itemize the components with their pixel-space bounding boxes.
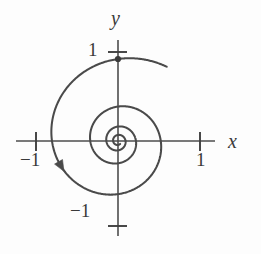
direction-arrow-icon	[55, 160, 64, 172]
spiral-phase-portrait-figure: y x 1 −1 −1 1	[0, 0, 261, 254]
x-axis-label: x	[228, 131, 237, 151]
spiral-trajectory-curve	[51, 58, 166, 194]
plot-canvas	[0, 0, 261, 254]
y-tick-positive-one-label: 1	[88, 40, 98, 59]
start-point-dot	[115, 56, 121, 62]
x-tick-positive-one-label: 1	[196, 150, 206, 169]
x-tick-negative-one-label: −1	[20, 150, 40, 169]
y-axis-label: y	[111, 8, 120, 28]
y-tick-negative-one-label: −1	[70, 201, 90, 220]
